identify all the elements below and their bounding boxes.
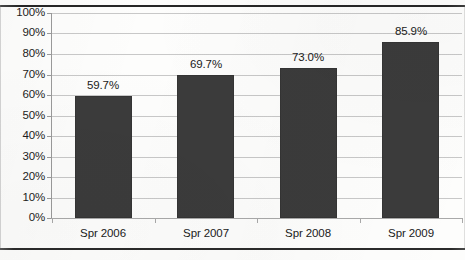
- y-axis-tick-label: 30%: [1, 150, 45, 162]
- bar-value-label: 85.9%: [371, 25, 451, 37]
- y-axis-tick: [47, 177, 52, 178]
- y-axis-tick: [47, 54, 52, 55]
- bar-value-label: 69.7%: [166, 58, 246, 70]
- x-axis-category-label: Spr 2006: [53, 227, 153, 239]
- x-axis-category-label: Spr 2009: [361, 227, 461, 239]
- y-axis-tick: [47, 95, 52, 96]
- x-axis-category-label: Spr 2008: [258, 227, 358, 239]
- y-axis-tick-label: 60%: [1, 88, 45, 100]
- bar[interactable]: [280, 68, 337, 218]
- y-axis-tick-label: 100%: [1, 6, 45, 18]
- y-axis-tick: [47, 198, 52, 199]
- x-axis-category-label: Spr 2007: [156, 227, 256, 239]
- y-axis-tick-label: 80%: [1, 47, 45, 59]
- x-axis-tick: [257, 218, 258, 223]
- gridline: [52, 13, 462, 14]
- y-axis-tick-label: 70%: [1, 68, 45, 80]
- y-axis-tick-label: 90%: [1, 26, 45, 38]
- y-axis-tick-label: 40%: [1, 129, 45, 141]
- bar-chart: 100%90%80%70%60%50%40%30%20%10%0% 59.7%6…: [0, 0, 465, 260]
- x-axis-tick: [462, 218, 463, 223]
- y-axis-tick-label: 10%: [1, 191, 45, 203]
- y-axis-tick: [47, 33, 52, 34]
- bar[interactable]: [382, 42, 439, 218]
- x-axis-tick: [360, 218, 361, 223]
- chart-page: 100%90%80%70%60%50%40%30%20%10%0% 59.7%6…: [0, 0, 465, 260]
- y-axis-tick: [47, 13, 52, 14]
- bar[interactable]: [177, 75, 234, 218]
- x-axis-tick: [155, 218, 156, 223]
- y-axis-tick: [47, 136, 52, 137]
- bar-value-label: 59.7%: [63, 79, 143, 91]
- y-axis-tick-label: 50%: [1, 109, 45, 121]
- y-axis-tick-labels: 100%90%80%70%60%50%40%30%20%10%0%: [0, 0, 45, 260]
- bar-value-label: 73.0%: [268, 51, 348, 63]
- y-axis-tick-label: 0%: [1, 211, 45, 223]
- y-axis-tick: [47, 75, 52, 76]
- x-axis-tick: [52, 218, 53, 223]
- y-axis-tick: [47, 116, 52, 117]
- bottom-rule-divider: [0, 248, 465, 250]
- bar[interactable]: [75, 96, 132, 218]
- y-axis-tick-label: 20%: [1, 170, 45, 182]
- y-axis-tick: [47, 157, 52, 158]
